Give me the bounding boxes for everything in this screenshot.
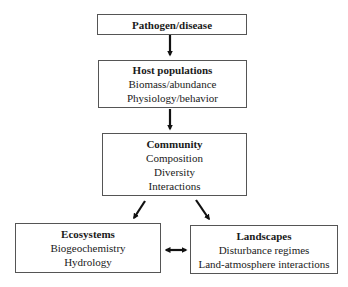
node-landscapes: Landscapes Disturbance regimes Land-atmo… [190,225,338,274]
node-line: Land-atmosphere interactions [198,257,329,271]
arrow-community-to-landscapes [196,200,209,219]
node-line: Interactions [149,179,201,193]
node-line: Biogeochemistry [50,241,125,255]
node-title: Pathogen/disease [132,18,212,32]
node-ecosystems: Ecosystems Biogeochemistry Hydrology [15,223,161,273]
node-host-populations: Host populations Biomass/abundance Physi… [98,60,247,108]
node-title: Community [146,137,202,151]
node-line: Physiology/behavior [127,91,218,105]
node-line: Composition [146,151,203,165]
node-title: Ecosystems [61,227,115,241]
arrow-community-to-ecosystems [134,201,145,218]
node-pathogen-disease: Pathogen/disease [97,14,247,35]
node-line: Diversity [154,165,195,179]
node-line: Disturbance regimes [219,243,310,257]
node-title: Landscapes [236,229,291,243]
node-line: Hydrology [64,255,112,269]
node-title: Host populations [133,63,213,77]
node-line: Biomass/abundance [129,77,217,91]
node-community: Community Composition Diversity Interact… [102,133,247,196]
